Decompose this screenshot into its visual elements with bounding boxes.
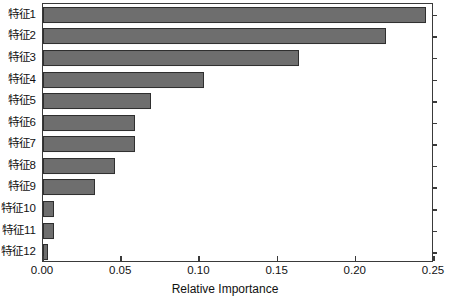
y-tick-mark: [432, 252, 437, 254]
y-tick-mark: [432, 123, 437, 125]
bar-row: [43, 26, 432, 48]
y-tick-mark: [432, 58, 437, 60]
y-tick-mark: [432, 231, 437, 233]
bars-layer: [43, 4, 432, 261]
y-axis-tick-label: 特征6: [8, 116, 36, 128]
bar-row: [43, 90, 432, 112]
x-tick-mark: [120, 256, 122, 261]
y-axis-tick-label: 特征8: [8, 159, 36, 171]
y-axis-tick-label: 特征3: [8, 51, 36, 63]
x-tick-mark: [198, 256, 200, 261]
bar: [43, 50, 299, 66]
bar: [43, 223, 54, 239]
y-axis-tick-label: 特征10: [1, 202, 36, 214]
bar-row: [43, 155, 432, 177]
y-tick-mark: [432, 144, 437, 146]
x-tick-mark: [355, 256, 357, 261]
bar: [43, 115, 135, 131]
bar: [43, 179, 95, 195]
y-tick-mark: [432, 209, 437, 211]
y-axis-tick-label: 特征11: [2, 224, 36, 236]
y-axis-tick-label: 特征9: [8, 180, 36, 192]
bar: [43, 7, 426, 23]
x-axis-tick-label: 0.25: [422, 264, 444, 277]
y-tick-mark: [432, 187, 437, 189]
y-tick-mark: [432, 101, 437, 103]
x-axis-tick-label: 0.15: [265, 264, 287, 277]
y-axis-tick-label: 特征2: [8, 29, 36, 41]
x-tick-mark: [433, 256, 435, 261]
y-axis-tick-labels: 特征1特征2特征3特征4特征5特征6特征7特征8特征9特征10特征11特征12: [0, 3, 40, 262]
bar: [43, 28, 386, 44]
bar: [43, 136, 135, 152]
y-tick-mark: [432, 166, 437, 168]
bar-row: [43, 177, 432, 199]
y-axis-tick-label: 特征7: [8, 137, 36, 149]
x-axis-tick-label: 0.05: [109, 264, 131, 277]
x-tick-mark: [277, 256, 279, 261]
y-axis-tick-label: 特征1: [8, 8, 36, 20]
bar-row: [43, 220, 432, 242]
plot-area: [42, 3, 433, 262]
bar-row: [43, 112, 432, 134]
bar-row: [43, 134, 432, 156]
y-tick-mark: [432, 15, 437, 17]
bar-row: [43, 241, 432, 263]
bar: [43, 72, 204, 88]
y-tick-mark: [432, 36, 437, 38]
x-axis-tick-label: 0.10: [187, 264, 209, 277]
x-axis-tick-label: 0.20: [344, 264, 366, 277]
bar: [43, 244, 48, 260]
bar-row: [43, 47, 432, 69]
x-axis-title: Relative Importance: [0, 282, 450, 296]
bar: [43, 158, 115, 174]
x-axis-tick-label: 0.00: [31, 264, 53, 277]
y-axis-tick-label: 特征4: [8, 73, 36, 85]
bar: [43, 93, 151, 109]
bar-row: [43, 198, 432, 220]
bar-row: [43, 4, 432, 26]
bar-row: [43, 69, 432, 91]
y-axis-tick-label: 特征5: [8, 94, 36, 106]
bar: [43, 201, 54, 217]
bar-chart: 特征1特征2特征3特征4特征5特征6特征7特征8特征9特征10特征11特征12 …: [0, 0, 450, 302]
x-tick-mark: [42, 256, 44, 261]
y-tick-mark: [432, 80, 437, 82]
y-axis-tick-label: 特征12: [1, 245, 36, 257]
